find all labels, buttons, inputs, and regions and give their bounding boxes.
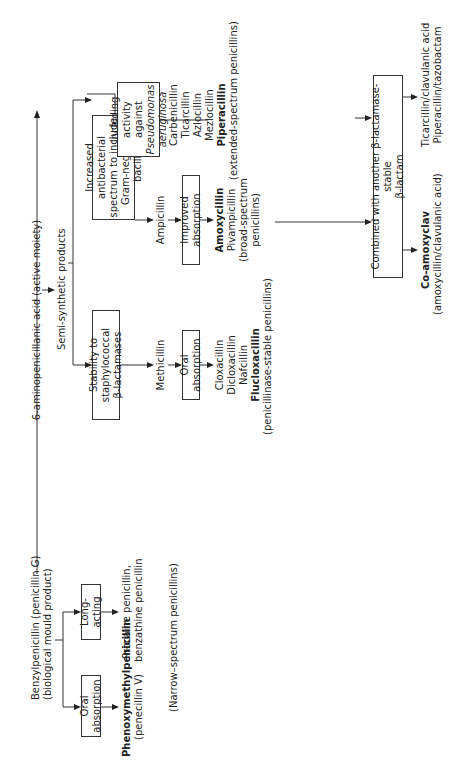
penicillin-diagram: Benzylpenicillin (penicillin G) (biologi…: [0, 0, 463, 774]
root-node: Benzylpenicillin (penicillin G) (biologi…: [30, 580, 54, 700]
biological-mould-label: (biological mould product): [42, 580, 54, 700]
narrow-spectrum-label: (Narrow–spectrum penicillins): [168, 592, 180, 712]
apa-label: 6-aminopenicillanic acid (active moiety): [31, 160, 43, 480]
methicillin-label: Methicillin: [155, 325, 167, 405]
procaine-node: Procaine penicillin, benzathine penicill…: [121, 562, 145, 662]
oral-absorption-box-natural: Oral absorption: [81, 675, 101, 737]
piperacillin-label: Piperacillin: [216, 50, 228, 180]
broad-spectrum-node: Amoxycillin Pivampicillin (broad-spectru…: [214, 170, 262, 270]
penicillin-v-node: Phenoxymethylpenicillin (penecillin V): [121, 657, 145, 757]
penicillinase-stable-node: Cloxacillin Dicloxacillin Nafcillin Fluc…: [214, 295, 274, 435]
long-acting-box: Long-acting: [81, 584, 101, 640]
phenoxymethylpenicillin-label: Phenoxymethylpenicillin: [121, 657, 133, 757]
semi-synthetic-label: Semi-synthetic products: [56, 230, 68, 350]
penicillinase-stable-label: (penicillinase-stable penicillins): [262, 295, 274, 435]
extended-spectrum-node: Carbenicillin Ticarcillin Azlocillin Mez…: [168, 50, 240, 180]
co-amoxyclav-node: Co-amoxyclav (amoxycillin/clavulanic aci…: [420, 185, 444, 315]
staph-stability-box: Stability to staphylococcal β-lactamases: [92, 310, 120, 420]
extended-spectrum-label: (extended-spectrum penicillins): [228, 50, 240, 180]
benzylpenicillin-label: Benzylpenicillin (penicillin G): [30, 580, 42, 700]
flucloxacillin-label: Flucloxacillin: [250, 295, 262, 435]
penicillin-v-label: (penecillin V): [133, 657, 145, 757]
oral-absorption-box-staph: Oral absorption: [182, 330, 200, 400]
pseudomonas-activity-box: Including activity against Pseudomonas a…: [117, 82, 160, 157]
combined-beta-lactam-box: Combined with another β-lactamase-stable…: [373, 75, 403, 278]
ticarcillin-piperacillin-node: Ticarcillin/clavulanic acid Piperacillin…: [420, 20, 444, 150]
co-amoxyclav-label: Co-amoxyclav: [420, 185, 432, 315]
amoxycillin-label: Amoxycillin: [214, 170, 226, 270]
ampicillin-label: Ampicillin: [155, 180, 167, 260]
improved-absorption-box: Improved absorption: [182, 175, 200, 265]
